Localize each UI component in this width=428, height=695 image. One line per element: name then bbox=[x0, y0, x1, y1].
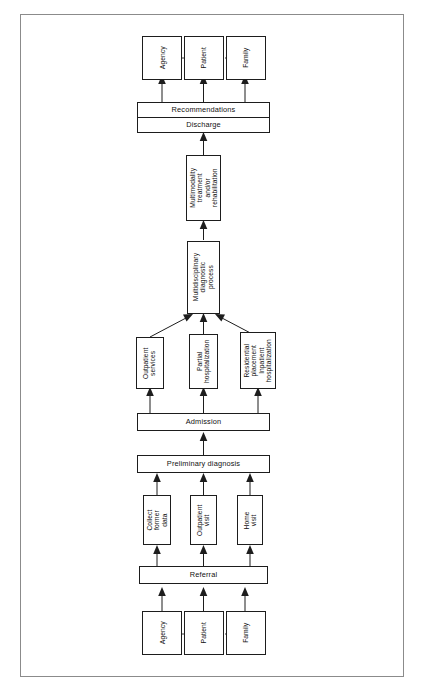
node-collect-former-data[interactable]: Collectformerdata bbox=[143, 495, 171, 545]
node-admission[interactable]: Admission bbox=[137, 413, 270, 431]
flowchart-diagram: Agency Patient Family Recommendations Di… bbox=[0, 0, 428, 695]
node-referral[interactable]: Referral bbox=[139, 566, 268, 584]
node-input-agency[interactable]: Agency bbox=[142, 611, 182, 655]
node-output-patient[interactable]: Patient bbox=[184, 36, 224, 80]
node-label: Preliminary diagnosis bbox=[167, 460, 240, 468]
node-label: Partialhospitalization bbox=[196, 340, 211, 383]
node-outpatient-visit[interactable]: Outpatientvisit bbox=[190, 495, 217, 545]
node-partial-hospitalization[interactable]: Partialhospitalization bbox=[189, 334, 218, 389]
node-label: Recommendations bbox=[172, 106, 236, 114]
node-home-visit[interactable]: Homevisit bbox=[237, 495, 263, 545]
node-label: Patient bbox=[200, 622, 208, 643]
node-label: Outpatientvisit bbox=[196, 504, 211, 535]
node-label: Multidisciplinarydiagnosticprocess bbox=[192, 253, 214, 301]
node-label: Patient bbox=[200, 47, 208, 68]
node-label: Admission bbox=[186, 418, 221, 426]
node-multidisciplinary-process[interactable]: Multidisciplinarydiagnosticprocess bbox=[187, 241, 220, 314]
node-residential-placement[interactable]: ResidentialplacementInpatienthospitaliza… bbox=[240, 332, 276, 389]
node-input-family[interactable]: Family bbox=[226, 611, 266, 655]
node-output-family[interactable]: Family bbox=[226, 36, 266, 80]
node-input-patient[interactable]: Patient bbox=[184, 611, 224, 655]
node-discharge[interactable]: Discharge bbox=[137, 117, 270, 133]
node-outpatient-services[interactable]: Outpatientservices bbox=[136, 337, 164, 389]
node-label: Agency bbox=[158, 622, 166, 645]
node-label: Discharge bbox=[186, 121, 221, 129]
node-label: Multimodalitytreatmentand/orrehabilitati… bbox=[189, 168, 219, 208]
node-label: Collectformerdata bbox=[146, 510, 168, 531]
node-output-agency[interactable]: Agency bbox=[142, 36, 182, 80]
node-label: Agency bbox=[158, 47, 166, 70]
node-label: Family bbox=[242, 623, 250, 643]
node-recommendations[interactable]: Recommendations bbox=[137, 102, 270, 118]
node-multimodality-treatment[interactable]: Multimodalitytreatmentand/orrehabilitati… bbox=[186, 155, 221, 221]
node-label: Referral bbox=[190, 571, 218, 579]
node-label: ResidentialplacementInpatienthospitaliza… bbox=[243, 339, 273, 382]
node-label: Homevisit bbox=[243, 511, 258, 529]
node-preliminary-diagnosis[interactable]: Preliminary diagnosis bbox=[137, 455, 270, 473]
node-label: Outpatientservices bbox=[143, 347, 158, 378]
node-label: Family bbox=[242, 48, 250, 68]
